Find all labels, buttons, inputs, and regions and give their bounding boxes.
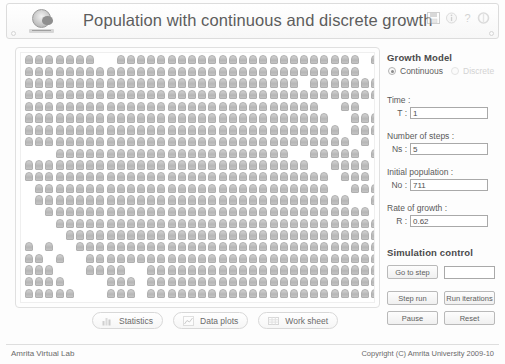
rate-of-growth-input[interactable]: 0.62 [410,215,488,227]
population-cell-empty [137,277,145,286]
population-cell [259,102,267,111]
population-cell [107,172,115,181]
go-to-step-input[interactable] [444,266,495,279]
population-cell [270,219,278,228]
population-cell-empty [56,242,64,251]
population-cell [117,55,125,64]
population-cell [127,67,135,76]
population-cell [270,230,278,239]
population-cell [45,195,53,204]
data-plots-button[interactable]: Data plots [173,312,248,329]
initial-population-input[interactable]: 711 [410,179,488,191]
population-cell [147,219,155,228]
population-cell [208,172,216,181]
population-cell [280,102,288,111]
pause-button[interactable]: Pause [387,311,438,325]
run-iterations-button[interactable]: Run iterations [444,291,495,305]
population-cell [371,55,375,64]
population-cell [341,219,349,228]
population-cell [188,160,196,169]
population-cell [290,78,298,87]
population-cell [178,265,186,274]
info-icon[interactable] [445,12,458,24]
population-cell [25,67,33,76]
population-cell [188,67,196,76]
population-cell [280,254,288,263]
population-cell [137,195,145,204]
population-cell [188,230,196,239]
population-cell [219,230,227,239]
population-cell [361,78,369,87]
population-cell [341,90,349,99]
population-cell [137,137,145,146]
population-cell [208,219,216,228]
time-input[interactable]: 1 [410,107,488,119]
population-cell [168,207,176,216]
reset-button[interactable]: Reset [444,311,495,325]
population-cell [249,289,257,298]
population-cell [96,149,104,158]
population-cell [35,55,43,64]
step-run-button[interactable]: Step run [387,291,438,305]
refresh-icon[interactable] [477,12,490,24]
radio-continuous[interactable] [388,67,396,75]
population-cell [249,265,257,274]
radio-discrete[interactable] [451,67,459,75]
number-of-steps-input[interactable]: 5 [410,143,488,155]
population-cell [35,184,43,193]
population-cell [56,254,64,263]
population-cell [331,242,339,251]
population-cell [259,125,267,134]
population-cell [178,125,186,134]
population-cell [280,137,288,146]
population-cell [320,289,328,298]
population-cell [147,113,155,122]
population-cell [310,102,318,111]
population-cell [229,195,237,204]
population-cell [290,242,298,251]
population-cell [198,125,206,134]
population-cell [331,219,339,228]
population-cell [157,55,165,64]
population-cell [96,254,104,263]
work-sheet-button[interactable]: Work sheet [258,312,338,329]
population-cell [56,137,64,146]
population-cell [331,125,339,134]
population-grid[interactable] [25,55,375,300]
population-cell [188,265,196,274]
population-cell [239,67,247,76]
population-cell [35,195,43,204]
population-cell [371,219,375,228]
population-cell [300,125,308,134]
population-cell [310,265,318,274]
population-cell [45,277,53,286]
population-cell [371,277,375,286]
population-cell [331,207,339,216]
population-cell [45,160,53,169]
population-cell [249,230,257,239]
population-cell [45,289,53,298]
population-cell [198,195,206,204]
population-cell [331,254,339,263]
population-cell [35,172,43,181]
population-cell [76,90,84,99]
population-cell [96,78,104,87]
statistics-button[interactable]: Statistics [92,312,163,329]
population-cell [117,78,125,87]
population-grid-canvas[interactable] [20,52,375,303]
population-cell [259,219,267,228]
population-cell [371,254,375,263]
population-cell [320,78,328,87]
go-to-step-button[interactable]: Go to step [387,265,438,279]
population-cell [45,172,53,181]
population-cell [208,230,216,239]
save-icon[interactable] [427,12,440,24]
population-cell [96,207,104,216]
population-cell [168,172,176,181]
population-cell [157,184,165,193]
help-icon[interactable]: ? [463,12,472,24]
population-cell [198,289,206,298]
population-cell [320,254,328,263]
population-cell [280,160,288,169]
population-cell [331,55,339,64]
